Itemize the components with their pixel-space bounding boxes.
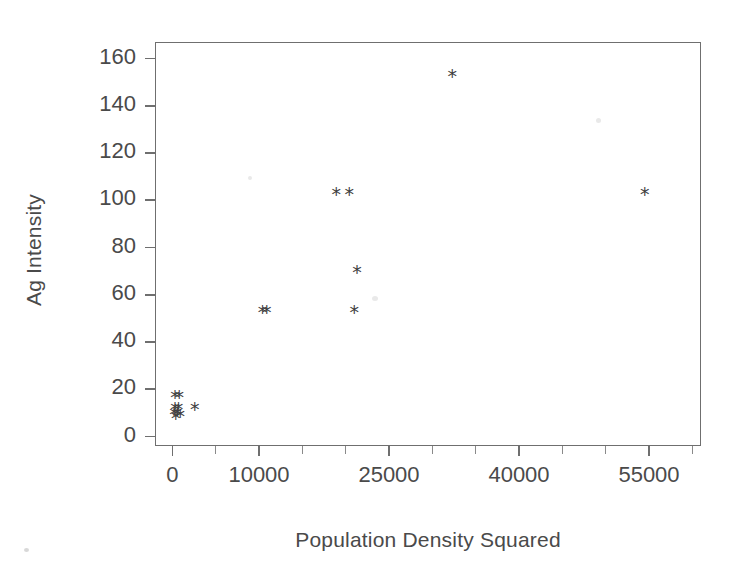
- x-tick-label-wrap: 25000: [319, 462, 459, 492]
- y-tick-label-wrap: 20: [48, 374, 136, 400]
- y-tick-label-wrap: 140: [48, 91, 136, 117]
- y-tick-0: [145, 436, 155, 438]
- y-tick-60: [145, 294, 155, 296]
- y-tick-100: [145, 199, 155, 201]
- y-tick-label: 20: [58, 374, 136, 400]
- y-tick-label-wrap: 60: [48, 280, 136, 306]
- data-point: *: [187, 400, 203, 419]
- y-tick-label: 120: [58, 138, 136, 164]
- x-tick-label: 25000: [319, 462, 459, 488]
- scan-speckle: [248, 176, 252, 180]
- y-tick-label: 40: [58, 327, 136, 353]
- x-tick-10000: [258, 446, 260, 456]
- x-tick-40000: [518, 446, 520, 456]
- y-tick-80: [145, 247, 155, 249]
- scan-speckle: [24, 548, 29, 552]
- data-point: *: [637, 185, 653, 204]
- x-tick-25000: [388, 446, 390, 456]
- x-tick-55000: [648, 446, 650, 456]
- x-tick-label-wrap: 40000: [449, 462, 589, 492]
- x-tick-minor: [475, 446, 477, 454]
- y-tick-label: 140: [58, 91, 136, 117]
- y-tick-label-wrap: 160: [48, 44, 136, 70]
- x-tick-minor: [562, 446, 564, 454]
- data-point: *: [349, 263, 365, 282]
- y-axis-title: Ag Intensity: [22, 150, 46, 350]
- x-tick-label-wrap: 55000: [579, 462, 719, 492]
- y-tick-label: 0: [58, 422, 136, 448]
- y-tick-140: [145, 105, 155, 107]
- x-tick-minor: [215, 446, 217, 454]
- x-tick-0: [172, 446, 174, 456]
- y-tick-label-wrap: 40: [48, 327, 136, 353]
- y-tick-label: 60: [58, 280, 136, 306]
- y-tick-label: 100: [58, 185, 136, 211]
- x-tick-label: 55000: [579, 462, 719, 488]
- plot-area: [155, 42, 701, 446]
- y-tick-20: [145, 388, 155, 390]
- scan-speckle: [372, 296, 378, 301]
- y-tick-label-wrap: 100: [48, 185, 136, 211]
- y-tick-label-wrap: 0: [48, 422, 136, 448]
- data-point: *: [259, 303, 275, 322]
- x-tick-minor: [345, 446, 347, 454]
- y-tick-label: 80: [58, 233, 136, 259]
- x-tick-label: 40000: [449, 462, 589, 488]
- x-tick-minor: [432, 446, 434, 454]
- x-tick-minor: [692, 446, 694, 454]
- x-tick-label: 10000: [189, 462, 329, 488]
- x-tick-minor: [302, 446, 304, 454]
- x-tick-label-wrap: 10000: [189, 462, 329, 492]
- y-tick-160: [145, 58, 155, 60]
- y-tick-label-wrap: 120: [48, 138, 136, 164]
- y-tick-label: 160: [58, 44, 136, 70]
- data-point: *: [341, 185, 357, 204]
- y-tick-120: [145, 152, 155, 154]
- scan-speckle: [596, 118, 601, 123]
- y-tick-40: [145, 341, 155, 343]
- y-tick-label-wrap: 80: [48, 233, 136, 259]
- x-axis-title: Population Density Squared: [155, 528, 701, 552]
- data-point: *: [346, 303, 362, 322]
- scatter-plot-figure: Ag Intensity 020406080100120140160 01000…: [0, 0, 732, 579]
- data-point: *: [444, 67, 460, 86]
- x-tick-minor: [605, 446, 607, 454]
- data-point: *: [172, 407, 188, 426]
